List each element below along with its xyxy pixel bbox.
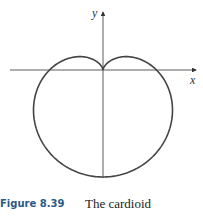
x-axis-label: x — [190, 73, 195, 88]
cardioid-plot — [0, 0, 203, 217]
figure-caption: The cardioid — [85, 196, 151, 212]
figure-number: Figure 8.39 — [0, 198, 64, 209]
y-axis-label: y — [92, 6, 97, 21]
